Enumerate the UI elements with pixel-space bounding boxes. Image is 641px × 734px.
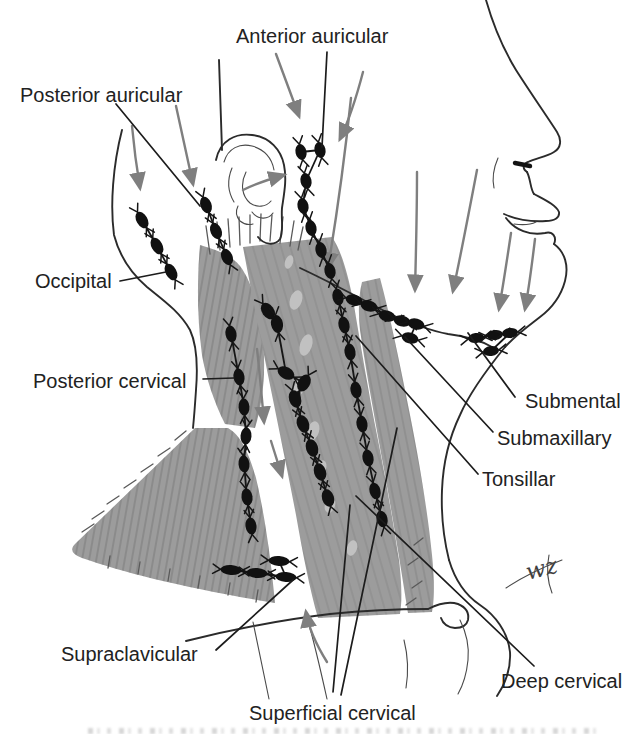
label-superficial-cervical: Superficial cervical: [249, 702, 416, 724]
helix-inner-line: [224, 145, 274, 170]
submental-node-chain: [460, 326, 526, 358]
label-submaxillary: Submaxillary: [497, 427, 611, 449]
label-posterior-auricular: Posterior auricular: [20, 84, 183, 106]
figure-canvas: Anterior auricular Posterior auricular O…: [0, 0, 641, 734]
flow-arrow-cheek-3: [453, 170, 477, 291]
label-anterior-auricular: Anterior auricular: [236, 25, 389, 47]
flow-arrow-cheek-2: [415, 172, 417, 290]
label-supraclavicular: Supraclavicular: [61, 643, 198, 665]
flow-arrow-scalp-2: [176, 106, 193, 184]
label-posterior-cervical: Posterior cervical: [33, 370, 186, 392]
flow-arrow-neck-2: [271, 441, 282, 476]
artist-signature: wz: [506, 552, 562, 593]
flow-arrow-ear: [243, 175, 284, 190]
anatomy-diagram: Anterior auricular Posterior auricular O…: [0, 0, 641, 734]
flow-arrow-cheek-1: [328, 98, 351, 268]
occipital-node-chain: [130, 203, 183, 289]
flow-arrow-chin-2: [525, 239, 535, 309]
leader-posterior-cervical: [203, 378, 234, 379]
flow-arrow-temporal: [276, 54, 299, 116]
front-neck-line: [442, 347, 505, 560]
pectoral-line-1: [253, 622, 269, 699]
antitragus-line: [252, 212, 273, 218]
temple-line: [219, 60, 222, 150]
tragus-line: [229, 168, 234, 202]
leader-anterior-auricular: [322, 52, 327, 147]
flow-arrow-chin-1: [499, 233, 511, 309]
cropped-caption-strip: [88, 728, 601, 734]
nostril-mark: [515, 163, 530, 166]
label-occipital: Occipital: [35, 270, 112, 292]
label-tonsillar: Tonsillar: [482, 468, 556, 490]
label-deep-cervical: Deep cervical: [501, 670, 622, 692]
leader-occipital: [120, 272, 166, 281]
upper-lip-line: [504, 194, 559, 221]
label-submental: Submental: [525, 390, 621, 412]
flow-arrow-scalp-1: [132, 126, 140, 188]
flow-arrow-preauricular: [340, 72, 363, 139]
nasolabial-crease: [493, 158, 498, 188]
